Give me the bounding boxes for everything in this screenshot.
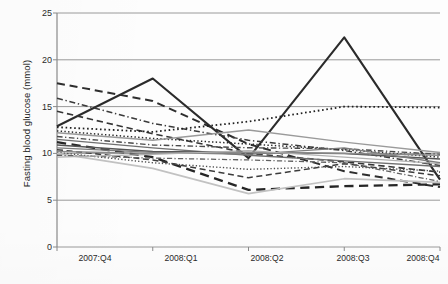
plot-area	[0, 0, 448, 284]
axis-lines	[53, 13, 440, 251]
series-line-patient-01	[57, 37, 440, 179]
series-lines	[57, 37, 440, 193]
series-line-patient-08	[57, 137, 440, 155]
chart-canvas: Fasting blood glucose (mmol) 25 20 15 10…	[0, 0, 448, 284]
x-tick-2007-q4: 2007:Q4	[55, 253, 135, 263]
x-tick-2008-q2: 2008:Q2	[227, 253, 307, 263]
x-tick-2008-q4: 2008:Q4	[383, 253, 448, 263]
series-line-patient-05	[57, 107, 440, 132]
x-tick-2008-q1: 2008:Q1	[141, 253, 221, 263]
x-tick-2008-q3: 2008:Q3	[313, 253, 393, 263]
